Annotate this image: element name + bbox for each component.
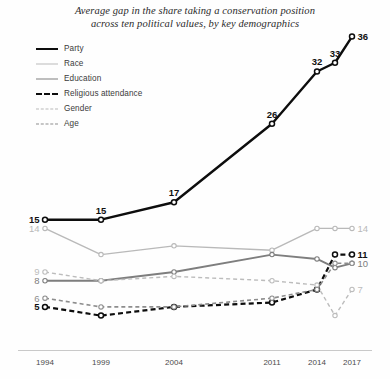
data-point-marker (350, 34, 355, 39)
data-point-marker (172, 200, 177, 205)
data-point-marker (99, 305, 103, 309)
data-point-marker (333, 252, 338, 257)
value-label-end-religious-attendance: 11 (358, 249, 369, 260)
data-point-marker (172, 274, 176, 278)
series-line (45, 272, 352, 316)
x-tick-label-1994: 1994 (36, 358, 54, 367)
data-point-marker (43, 270, 47, 274)
value-label-end-party: 36 (358, 31, 369, 42)
x-tick-label-2014: 2014 (308, 358, 326, 367)
data-point-marker (350, 226, 354, 230)
data-point-marker (43, 296, 47, 300)
data-point-marker (43, 217, 48, 222)
data-point-marker (99, 252, 103, 256)
data-point-marker (333, 226, 337, 230)
data-point-marker (43, 226, 47, 230)
data-point-marker (43, 279, 47, 283)
value-label-party-2004: 17 (169, 187, 180, 198)
data-point-marker (270, 279, 274, 283)
series-line (45, 263, 352, 307)
value-label-end-race: 14 (358, 223, 369, 234)
data-point-marker (333, 313, 337, 317)
data-point-marker (350, 287, 354, 291)
value-label-party-2014: 32 (312, 56, 323, 67)
data-point-marker (270, 296, 274, 300)
value-label-party-1999: 15 (96, 205, 107, 216)
data-point-marker (315, 287, 319, 291)
data-point-marker (99, 217, 104, 222)
series-party (43, 34, 355, 222)
value-label-start-gender: 9 (34, 266, 39, 277)
value-label-start-age: 6 (34, 293, 39, 304)
data-point-marker (333, 261, 337, 265)
chart-container: Average gap in the share taking a conser… (0, 0, 390, 379)
data-point-marker (43, 304, 48, 309)
value-label-party-2011: 26 (267, 109, 278, 120)
series-line (45, 255, 352, 316)
value-label-end-gender: 7 (358, 284, 363, 295)
data-point-marker (315, 257, 319, 261)
series-layer (43, 34, 355, 318)
data-point-marker (270, 252, 274, 256)
series-race (43, 226, 354, 257)
data-point-marker (172, 305, 176, 309)
x-tick-label-1999: 1999 (92, 358, 110, 367)
x-tick-label-2017: 2017 (343, 358, 361, 367)
data-point-marker (333, 60, 338, 65)
data-point-marker (315, 283, 319, 287)
data-point-marker (350, 261, 354, 265)
value-label-party-2015: 33 (330, 48, 341, 59)
x-tick-label-2004: 2004 (165, 358, 183, 367)
data-point-marker (350, 252, 355, 257)
series-religious-attendance (43, 252, 355, 318)
data-point-marker (172, 244, 176, 248)
data-point-marker (270, 121, 275, 126)
data-point-marker (270, 248, 274, 252)
data-point-marker (315, 69, 320, 74)
data-point-marker (99, 279, 103, 283)
series-gender (43, 270, 354, 318)
data-point-marker (99, 313, 104, 318)
series-line (45, 228, 352, 254)
series-line (45, 37, 352, 220)
x-tick-label-2011: 2011 (263, 358, 281, 367)
chart-plot-area: 199419992004201120142017 153615172632331… (0, 0, 390, 379)
data-point-marker (172, 270, 176, 274)
data-point-marker (315, 226, 319, 230)
value-label-start-race: 14 (29, 223, 40, 234)
x-tick-labels: 199419992004201120142017 (36, 358, 361, 367)
